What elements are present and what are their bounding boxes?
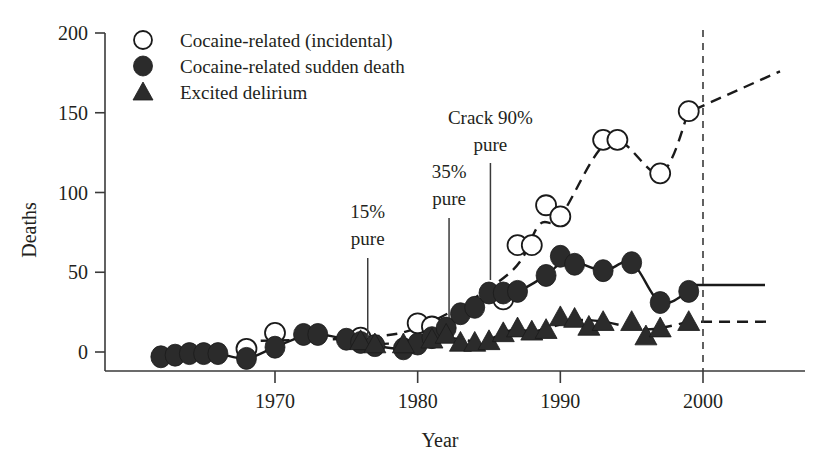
data-point-triangle — [621, 311, 643, 331]
y-tick-label: 50 — [68, 261, 88, 283]
x-tick-label: 1990 — [540, 390, 580, 412]
data-point-filled-circle — [593, 260, 613, 282]
data-point-open-circle — [550, 206, 570, 226]
legend: Cocaine-related (incidental)Cocaine-rela… — [133, 30, 405, 103]
annotation-label-line2: pure — [474, 134, 508, 155]
x-axis-ticks: 1970198019902000 — [255, 371, 723, 412]
data-point-open-circle — [679, 101, 699, 121]
x-tick-label: 1970 — [255, 390, 295, 412]
annotation-label-line1: 35% — [432, 161, 467, 182]
legend-label: Cocaine-related sudden death — [180, 56, 405, 77]
x-axis-title: Year — [422, 429, 459, 451]
data-point-filled-circle — [650, 292, 670, 314]
data-point-filled-circle — [679, 280, 699, 302]
data-point-filled-circle — [622, 252, 642, 274]
annotation-label-line2: pure — [351, 228, 385, 249]
y-tick-label: 150 — [58, 102, 88, 124]
y-tick-label: 0 — [78, 341, 88, 363]
data-point-triangle — [678, 311, 700, 331]
annotation-label-line1: Crack 90% — [448, 107, 533, 128]
chart-svg: 050100150200 1970198019902000 Deaths Yea… — [0, 0, 821, 461]
data-point-filled-circle — [508, 280, 528, 302]
x-tick-label: 2000 — [683, 390, 723, 412]
data-point-filled-circle — [236, 347, 256, 369]
data-point-filled-circle — [208, 343, 228, 365]
annotation-label-line2: pure — [432, 188, 466, 209]
y-axis-ticks: 050100150200 — [58, 22, 105, 363]
data-point-filled-circle — [565, 253, 585, 275]
legend-marker-triangle — [133, 82, 153, 100]
data-point-open-circle — [650, 163, 670, 183]
y-axis-title: Deaths — [18, 202, 40, 258]
trend-tail-incidental — [694, 71, 780, 109]
legend-label: Excited delirium — [180, 82, 307, 103]
data-point-filled-circle — [308, 323, 328, 345]
x-tick-label: 1980 — [398, 390, 438, 412]
legend-marker-open-circle — [134, 31, 152, 49]
legend-label: Cocaine-related (incidental) — [180, 30, 393, 52]
chart-figure: 050100150200 1970198019902000 Deaths Yea… — [0, 0, 821, 461]
y-tick-label: 100 — [58, 182, 88, 204]
data-point-filled-circle — [265, 336, 285, 358]
legend-marker-filled-circle — [134, 56, 153, 76]
annotation-label-line1: 15% — [350, 201, 385, 222]
data-markers-group — [151, 101, 700, 369]
data-point-open-circle — [522, 235, 542, 255]
data-point-filled-circle — [536, 264, 556, 286]
y-tick-label: 200 — [58, 22, 88, 44]
data-point-open-circle — [607, 130, 627, 150]
